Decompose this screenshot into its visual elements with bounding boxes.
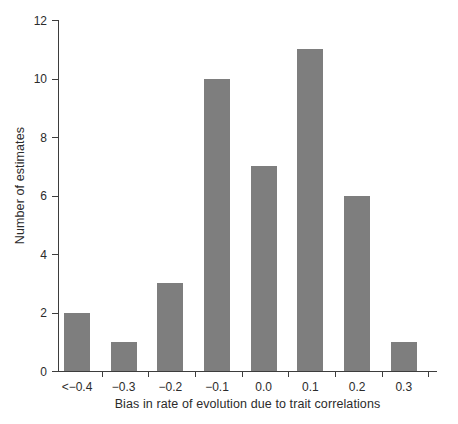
- x-axis-tick-mark: [242, 372, 243, 377]
- y-axis-tick-label: 4: [40, 248, 47, 262]
- x-axis-tick-mark: [148, 372, 149, 377]
- y-axis-tick-label: 6: [40, 189, 47, 203]
- bar: [251, 166, 277, 371]
- y-axis-tick-mark: 10: [52, 79, 58, 80]
- x-axis-title: Bias in rate of evolution due to trait c…: [58, 397, 437, 411]
- y-axis-tick-label: 2: [40, 306, 47, 320]
- bar: [111, 342, 137, 371]
- x-axis-tick-mark: [288, 372, 289, 377]
- bar: [344, 196, 370, 372]
- x-axis-tick-label: −0.3: [112, 380, 136, 394]
- y-axis-tick-mark: 0: [52, 371, 58, 372]
- bar: [157, 283, 183, 371]
- x-axis-tick-label: 0.1: [302, 380, 319, 394]
- y-axis-tick-mark: 4: [52, 254, 58, 255]
- y-axis-tick-label: 10: [34, 72, 47, 86]
- x-axis-tick-label: 0.2: [349, 380, 366, 394]
- x-axis-tick-mark: [195, 372, 196, 377]
- bar: [391, 342, 417, 371]
- x-axis-tick-mark: [335, 372, 336, 377]
- x-axis-tick-mark: [382, 372, 383, 377]
- y-axis-title: Number of estimates: [10, 0, 30, 371]
- x-axis-tick-label: 0.3: [395, 380, 412, 394]
- y-axis-line: [58, 20, 59, 371]
- x-axis-tick-label: −0.2: [158, 380, 182, 394]
- x-axis-tick-label: <−0.4: [62, 380, 93, 394]
- y-axis-tick-label: 0: [40, 365, 47, 379]
- y-axis-tick-mark: 8: [52, 137, 58, 138]
- y-axis-tick-mark: 2: [52, 313, 58, 314]
- y-axis-tick-label: 8: [40, 131, 47, 145]
- x-axis-tick-mark: [428, 372, 429, 377]
- y-axis-tick-mark: 12: [52, 20, 58, 21]
- bar: [204, 79, 230, 372]
- y-axis-tick-label: 12: [34, 14, 47, 28]
- x-axis-tick-mark: [102, 372, 103, 377]
- plot-area: 024681012 <−0.4−0.3−0.2−0.10.00.10.20.3: [58, 20, 437, 371]
- histogram-figure: Number of estimates 024681012 <−0.4−0.3−…: [0, 0, 458, 424]
- x-axis-tick-label: −0.1: [205, 380, 229, 394]
- y-axis-tick-mark: 6: [52, 196, 58, 197]
- x-axis-tick-label: 0.0: [255, 380, 272, 394]
- x-axis-line: [58, 371, 437, 372]
- bar: [297, 49, 323, 371]
- bar: [64, 313, 90, 372]
